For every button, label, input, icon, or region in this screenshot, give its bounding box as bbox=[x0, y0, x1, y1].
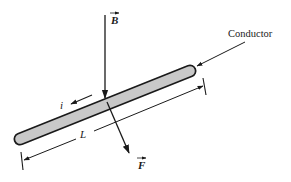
diagram-canvas: B F i L Conductor bbox=[0, 0, 291, 182]
conductor-label: Conductor bbox=[228, 28, 273, 39]
current-arrow bbox=[71, 95, 92, 104]
svg-text:F: F bbox=[137, 159, 146, 171]
length-label: L bbox=[79, 128, 86, 140]
force-on-conductor-diagram: B F i L Conductor bbox=[0, 0, 291, 182]
force-label: F bbox=[137, 158, 146, 171]
magnetic-field-label: B bbox=[110, 13, 119, 26]
force-vector bbox=[107, 102, 129, 153]
svg-text:B: B bbox=[110, 14, 118, 26]
current-label: i bbox=[60, 99, 63, 111]
conductor-pointer-arrow bbox=[197, 42, 245, 66]
